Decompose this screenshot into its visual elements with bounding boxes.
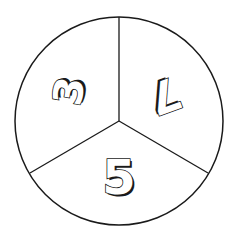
spinner: 3 3 7 7 5 5 xyxy=(0,0,233,240)
section-label-5: 5 xyxy=(102,149,135,205)
section-5: 5 5 xyxy=(102,149,137,207)
